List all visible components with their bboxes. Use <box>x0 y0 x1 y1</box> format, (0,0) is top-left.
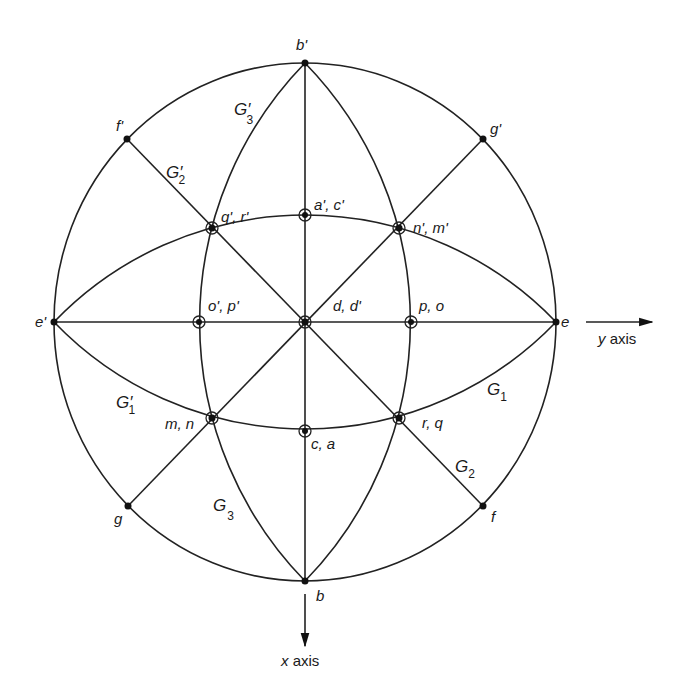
label-m-n: m, n <box>165 415 194 432</box>
label-e-prime: e' <box>35 313 47 330</box>
label-e: e <box>561 313 569 330</box>
y-axis-label: y axis <box>597 330 636 347</box>
label-r-q: r, q <box>422 414 444 431</box>
label-d-d-prime: d, d' <box>333 297 362 314</box>
label-G1-prime: G′1 <box>116 393 135 417</box>
label-G3: G3 <box>213 496 234 523</box>
label-f-prime: f' <box>116 117 124 134</box>
point-e <box>553 319 560 326</box>
label-c-a: c, a <box>311 435 335 452</box>
point-f <box>480 503 487 510</box>
point-e-prime <box>51 319 58 326</box>
label-G2: G2 <box>455 457 475 481</box>
label-a-c-prime: a', c' <box>314 196 345 213</box>
label-f: f <box>491 508 497 525</box>
label-g: g <box>114 510 123 527</box>
label-b-prime: b' <box>296 36 308 53</box>
point-b-prime <box>302 60 309 67</box>
label-g-prime: g' <box>490 120 502 137</box>
label-q-r-prime: q', r' <box>221 208 250 225</box>
label-G1: G1 <box>487 380 507 404</box>
point-g <box>125 503 132 510</box>
point-g-prime <box>480 136 487 143</box>
label-o-p-prime: o', p' <box>208 297 240 314</box>
label-G3-prime: G′3 <box>234 100 253 127</box>
x-axis-label: x axis <box>280 652 319 669</box>
point-f-prime <box>124 136 131 143</box>
label-n-m-prime: n', m' <box>413 219 449 236</box>
label-G2-prime: G′2 <box>166 163 185 187</box>
stereographic-diagram: b' b e' e f' g' g f d, d' a', c' c, a o'… <box>0 0 687 691</box>
point-b <box>302 578 309 585</box>
label-b: b <box>316 587 324 604</box>
label-p-o: p, o <box>418 297 444 314</box>
